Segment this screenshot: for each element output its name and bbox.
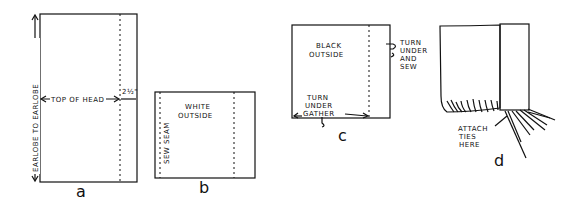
caption-d: d xyxy=(494,151,504,170)
caption-c: c xyxy=(338,126,347,145)
hood-body xyxy=(440,25,500,112)
side-note-line-2: UNDER xyxy=(400,47,428,55)
top-of-head-label: TOP OF HEAD xyxy=(50,96,104,104)
figure-b: WHITE OUTSIDE SEW SEAM b xyxy=(155,92,255,197)
figure-d: ATTACH TIES HERE d xyxy=(440,24,555,170)
ties-pointer xyxy=(495,116,507,126)
caption-a: a xyxy=(76,182,86,201)
ties-note-line-1: ATTACH xyxy=(458,125,488,133)
side-note-line-3: AND xyxy=(400,55,417,63)
earlobe-label: EARLOBE TO EARLOBE xyxy=(32,84,40,172)
side-note-line-4: SEW xyxy=(400,63,417,71)
side-note-line-1: TURN xyxy=(399,39,422,47)
white-label: WHITE xyxy=(185,103,210,111)
ties xyxy=(505,109,555,158)
margin-label: 2½" xyxy=(122,88,138,96)
hood-band xyxy=(500,24,529,110)
outside-label-c: OUTSIDE xyxy=(309,51,344,59)
bottom-note-line-1: TURN xyxy=(306,94,329,102)
sew-seam-label: SEW SEAM xyxy=(163,122,171,164)
ties-note-line-2: TIES xyxy=(458,133,476,141)
bottom-note-line-3: GATHER xyxy=(303,110,335,118)
figure-c: BLACK OUTSIDE TURN UNDER AND SEW TURN UN… xyxy=(292,25,428,145)
bottom-note-line-2: UNDER xyxy=(305,102,333,110)
outside-label-b: OUTSIDE xyxy=(178,112,213,120)
gathers xyxy=(447,99,498,112)
figure-a: EARLOBE TO EARLOBE TOP OF HEAD 2½" a xyxy=(30,14,138,201)
black-label: BLACK xyxy=(316,42,342,50)
ties-note-line-3: HERE xyxy=(459,141,480,149)
sewing-pattern-diagram: EARLOBE TO EARLOBE TOP OF HEAD 2½" a WHI… xyxy=(0,0,564,205)
caption-b: b xyxy=(199,178,209,197)
